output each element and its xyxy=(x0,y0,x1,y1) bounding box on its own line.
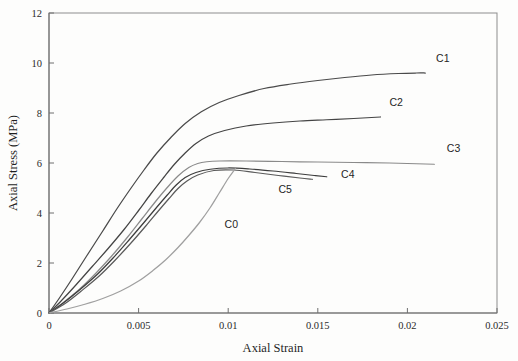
series-line-c1 xyxy=(49,73,425,313)
series-line-c3 xyxy=(49,161,434,313)
y-tick-label: 8 xyxy=(37,108,42,119)
curve-label-c0: C0 xyxy=(225,218,239,230)
y-tick-label: 12 xyxy=(32,8,43,19)
y-tick-label: 4 xyxy=(37,208,43,219)
curve-label-c4: C4 xyxy=(341,168,355,180)
axis-ticks xyxy=(49,13,497,313)
y-tick-label: 0 xyxy=(37,308,42,319)
y-tick-label: 10 xyxy=(32,58,43,69)
axial-stress-strain-chart: 02468101200.0050.010.0150.020.025 C1C2C3… xyxy=(0,0,518,361)
x-axis-title: Axial Strain xyxy=(243,341,305,355)
x-tick-label: 0.005 xyxy=(127,320,151,331)
curve-label-c5: C5 xyxy=(278,183,292,195)
y-tick-label: 6 xyxy=(37,158,42,169)
plot-frame xyxy=(49,13,497,313)
x-tick-label: 0.025 xyxy=(485,320,509,331)
curve-labels: C1C2C3C4C5C0 xyxy=(225,52,461,230)
curve-label-c1: C1 xyxy=(436,52,450,64)
x-tick-label: 0.02 xyxy=(398,320,416,331)
y-axis-title: Axial Stress (MPa) xyxy=(6,115,20,211)
y-tick-label: 2 xyxy=(37,258,42,269)
x-tick-label: 0 xyxy=(46,320,51,331)
data-series xyxy=(49,73,434,313)
x-tick-label: 0.015 xyxy=(306,320,330,331)
series-line-c2 xyxy=(49,117,381,313)
curve-label-c3: C3 xyxy=(447,142,461,154)
plot-border xyxy=(49,13,497,313)
series-line-c5 xyxy=(49,170,312,313)
curve-label-c2: C2 xyxy=(389,96,403,108)
x-tick-label: 0.01 xyxy=(219,320,237,331)
chart-figure: 02468101200.0050.010.0150.020.025 C1C2C3… xyxy=(0,0,518,361)
